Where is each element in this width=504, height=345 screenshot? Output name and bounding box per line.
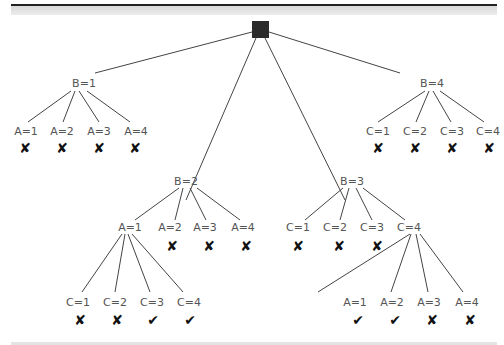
node-b2-a1-c3: C=3 xyxy=(140,297,164,309)
node-b2-a1: A=1 xyxy=(118,222,142,234)
node-b3-c4-a1: A=1 xyxy=(343,297,367,309)
tree-edges xyxy=(0,0,504,345)
node-b4-c4: C=4 xyxy=(476,126,500,138)
fail-icon: ✘ xyxy=(464,313,476,327)
node-b2-a1-c2: C=2 xyxy=(103,297,127,309)
node-b3-c4-a4: A=4 xyxy=(455,297,479,309)
node-b2-a1-c1: C=1 xyxy=(66,297,90,309)
node-b2-a4: A=4 xyxy=(231,222,255,234)
node-b1-a1: A=1 xyxy=(14,126,38,138)
node-b1-a4: A=4 xyxy=(124,126,148,138)
fail-icon: ✘ xyxy=(129,141,141,155)
fail-icon: ✘ xyxy=(292,239,304,253)
fail-icon: ✘ xyxy=(333,239,345,253)
node-b4-c3: C=3 xyxy=(440,126,464,138)
node-b1-a2: A=2 xyxy=(50,126,74,138)
node-b4-c2: C=2 xyxy=(403,126,427,138)
fail-icon: ✘ xyxy=(372,141,384,155)
check-icon: ✔ xyxy=(389,313,401,327)
node-b2: B=2 xyxy=(174,176,198,188)
fail-icon: ✘ xyxy=(446,141,458,155)
check-icon: ✔ xyxy=(147,313,159,327)
fail-icon: ✘ xyxy=(240,239,252,253)
fail-icon: ✘ xyxy=(483,141,495,155)
node-b4-c1: C=1 xyxy=(366,126,390,138)
node-b3-c1: C=1 xyxy=(286,222,310,234)
root-node xyxy=(252,21,269,38)
node-b3-c3: C=3 xyxy=(360,222,384,234)
fail-icon: ✘ xyxy=(371,239,383,253)
fail-icon: ✘ xyxy=(56,141,68,155)
fail-icon: ✘ xyxy=(409,141,421,155)
fail-icon: ✘ xyxy=(93,141,105,155)
check-icon: ✔ xyxy=(352,313,364,327)
fail-icon: ✘ xyxy=(74,313,86,327)
fail-icon: ✘ xyxy=(426,313,438,327)
node-b1: B=1 xyxy=(72,78,96,90)
node-b3-c2: C=2 xyxy=(323,222,347,234)
node-b2-a2: A=2 xyxy=(158,222,182,234)
node-b2-a1-c4: C=4 xyxy=(177,297,201,309)
node-b3: B=3 xyxy=(340,176,364,188)
fail-icon: ✘ xyxy=(166,239,178,253)
node-b4: B=4 xyxy=(420,78,444,90)
node-b3-c4-a2: A=2 xyxy=(380,297,404,309)
fail-icon: ✘ xyxy=(111,313,123,327)
check-icon: ✔ xyxy=(184,313,196,327)
node-b1-a3: A=3 xyxy=(87,126,111,138)
fail-icon: ✘ xyxy=(19,141,31,155)
fail-icon: ✘ xyxy=(203,239,215,253)
node-b3-c4: C=4 xyxy=(397,222,421,234)
node-b2-a3: A=3 xyxy=(193,222,217,234)
node-b3-c4-a3: A=3 xyxy=(417,297,441,309)
